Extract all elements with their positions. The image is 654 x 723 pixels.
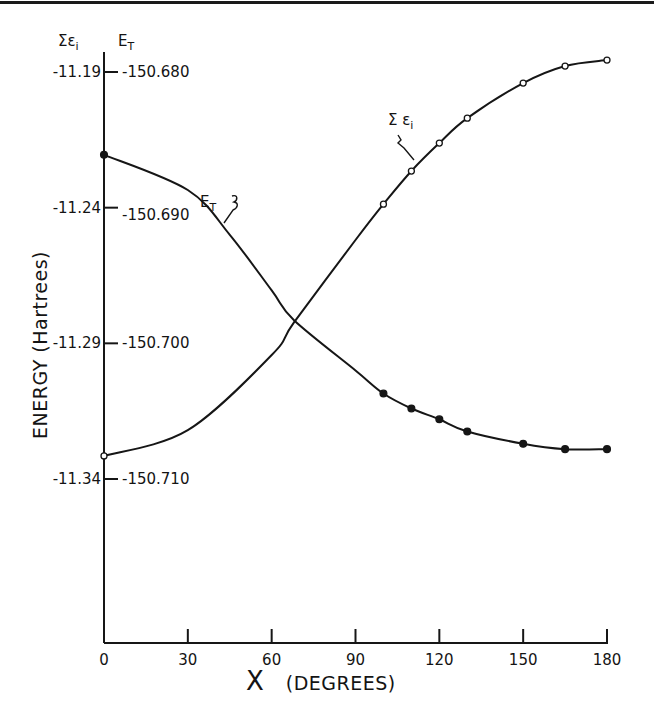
data-point-et bbox=[520, 440, 527, 447]
x-tick-label: 120 bbox=[425, 651, 454, 669]
data-point-et bbox=[408, 405, 415, 412]
label-sum-eps: Σ εi bbox=[388, 111, 414, 160]
y-tick-label-sum-eps: -11.34 bbox=[53, 470, 101, 488]
data-point-et bbox=[101, 151, 108, 158]
data-point-et bbox=[380, 390, 387, 397]
data-point-et bbox=[604, 446, 611, 453]
data-point-sum-eps bbox=[520, 80, 526, 86]
y-tick-label-et: -150.690 bbox=[122, 206, 189, 224]
data-point-sum-eps bbox=[604, 57, 610, 63]
x-tick-label: 90 bbox=[346, 651, 365, 669]
series-line-sum-eps bbox=[104, 60, 607, 456]
data-point-sum-eps bbox=[408, 168, 414, 174]
x-axis-ticks: 0306090120150180 bbox=[99, 629, 621, 669]
svg-text:ET: ET bbox=[200, 193, 216, 214]
data-point-et bbox=[464, 428, 471, 435]
y-tick-label-et: -150.700 bbox=[122, 334, 189, 352]
y-axis-title: ENERGY (Hartrees) bbox=[29, 251, 51, 439]
label-leader-et bbox=[224, 196, 237, 223]
series-layer bbox=[101, 57, 611, 459]
svg-text:Σ εi: Σ εi bbox=[388, 111, 413, 132]
y-axis-header-sum-eps: Σεi bbox=[58, 32, 79, 53]
data-point-sum-eps bbox=[562, 63, 568, 69]
y-tick-label-sum-eps: -11.29 bbox=[53, 334, 101, 352]
y-tick-label-sum-eps: -11.24 bbox=[53, 199, 101, 217]
x-axis-title: X(DEGREES) bbox=[246, 666, 396, 696]
label-leader-sum-eps bbox=[398, 135, 414, 160]
series-line-et bbox=[104, 155, 607, 450]
x-tick-label: 150 bbox=[509, 651, 538, 669]
x-tick-label: 60 bbox=[262, 651, 281, 669]
energy-chart: 0306090120150180 -11.19-150.680-11.24-15… bbox=[0, 0, 654, 723]
data-point-sum-eps bbox=[380, 201, 386, 207]
x-tick-label: 0 bbox=[99, 651, 109, 669]
y-tick-label-et: -150.710 bbox=[122, 470, 189, 488]
y-axis-ticks: -11.19-150.680-11.24-150.690-11.29-150.7… bbox=[53, 63, 190, 488]
data-point-sum-eps bbox=[101, 453, 107, 459]
y-axis-header-et: ET bbox=[118, 32, 134, 53]
data-point-sum-eps bbox=[436, 140, 442, 146]
y-tick-label-et: -150.680 bbox=[122, 63, 189, 81]
x-tick-label: 180 bbox=[593, 651, 622, 669]
data-point-et bbox=[436, 416, 443, 423]
data-point-et bbox=[562, 446, 569, 453]
data-point-sum-eps bbox=[464, 115, 470, 121]
label-et: ET bbox=[200, 193, 237, 223]
x-tick-label: 30 bbox=[178, 651, 197, 669]
y-tick-label-sum-eps: -11.19 bbox=[53, 63, 101, 81]
